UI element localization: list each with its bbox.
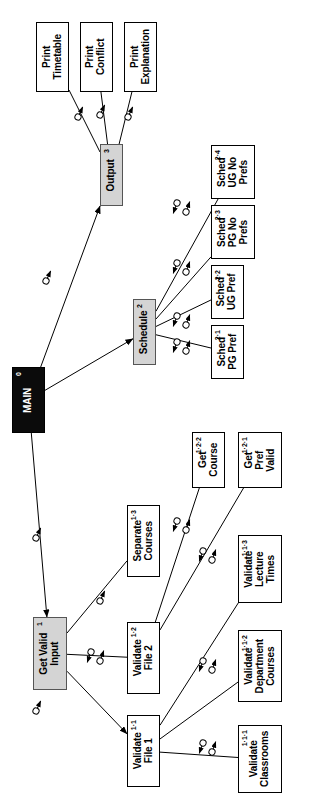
module-number: 2·4 bbox=[214, 150, 221, 160]
data-couple-out-7 bbox=[182, 340, 193, 355]
data-couple-in-14 bbox=[196, 657, 207, 672]
connector-valfile1-to-valclass bbox=[160, 752, 238, 757]
data-couple-1 bbox=[96, 104, 108, 119]
connector-valfile2-to-getpref bbox=[160, 488, 244, 630]
connector-output-to-printex bbox=[119, 92, 132, 144]
data-couple-in-12 bbox=[170, 517, 181, 532]
data-couple-in-6 bbox=[170, 312, 181, 327]
module-number: 2·2 bbox=[214, 270, 221, 280]
data-couple-in-13 bbox=[196, 547, 207, 562]
module-label: Validate File 1 bbox=[133, 733, 155, 770]
module-schedule[interactable]: Schedule2 bbox=[133, 299, 156, 365]
data-couple-out-4 bbox=[182, 201, 193, 216]
module-label: Validate Lecture Times bbox=[244, 550, 276, 587]
data-couple-3 bbox=[42, 270, 54, 285]
connector-valfile2-to-getcourse bbox=[155, 488, 199, 622]
data-couple-out-13 bbox=[208, 549, 219, 564]
data-couple-in-10 bbox=[84, 648, 95, 663]
module-number: 1·1·1 bbox=[241, 730, 248, 746]
data-couple-out-10 bbox=[96, 650, 107, 665]
data-couple-out-14 bbox=[208, 659, 219, 674]
module-number: 3 bbox=[103, 149, 110, 153]
module-valdept[interactable]: Validate Department Courses1·1·2 bbox=[238, 630, 282, 702]
module-label: Validate Department Courses bbox=[244, 639, 276, 694]
module-number: 1·1·2 bbox=[241, 635, 248, 651]
connector-schedule-to-sch23 bbox=[156, 257, 211, 319]
connector-main-to-schedule bbox=[45, 339, 133, 391]
module-label: Sched UG No Prefs bbox=[217, 157, 249, 188]
data-couple-11 bbox=[32, 700, 44, 715]
connector-getvalid-to-valfile2 bbox=[67, 654, 127, 657]
data-couple-0 bbox=[74, 106, 86, 121]
data-couple-in-4 bbox=[170, 199, 181, 214]
connector-valfile1-to-vallect bbox=[160, 603, 238, 725]
module-label: Schedule bbox=[139, 310, 150, 354]
module-label: MAIN bbox=[23, 387, 34, 412]
module-printcf[interactable]: Print Conflict bbox=[80, 22, 113, 92]
data-couple-8 bbox=[32, 527, 44, 542]
module-sch21[interactable]: Sched PG Pref2·1 bbox=[211, 325, 244, 379]
module-label: Get Pref Valid bbox=[244, 449, 276, 472]
module-label: Print Timetable bbox=[42, 34, 64, 80]
connector-getvalid-to-valfile1 bbox=[67, 671, 127, 734]
module-sch22[interactable]: Sched UG Pref2·2 bbox=[211, 265, 244, 319]
data-couple-out-15 bbox=[208, 741, 219, 756]
module-label: Get Valid Input bbox=[39, 633, 61, 675]
data-couple-out-5 bbox=[182, 261, 193, 276]
data-couple-2 bbox=[124, 106, 136, 121]
connector-output-to-printcf bbox=[101, 92, 108, 144]
module-sch24[interactable]: Sched UG No Prefs2·4 bbox=[211, 145, 255, 199]
module-main[interactable]: MAIN0 bbox=[12, 367, 45, 433]
connector-main-to-getvalid bbox=[31, 433, 47, 617]
data-couple-in-7 bbox=[170, 338, 181, 353]
module-label: Print Conflict bbox=[86, 39, 108, 75]
module-getpref[interactable]: Get Pref Valid1·2·1 bbox=[238, 432, 282, 488]
module-output[interactable]: Output3 bbox=[100, 144, 123, 206]
module-getvalid[interactable]: Get Valid Input1 bbox=[33, 617, 67, 690]
module-number: 1·2 bbox=[130, 627, 137, 637]
module-label: Validate File 2 bbox=[133, 640, 155, 677]
module-number: 2·1 bbox=[214, 330, 221, 340]
data-couple-out-6 bbox=[182, 314, 193, 329]
module-label: Output bbox=[106, 159, 117, 191]
module-label: Sched PG No Prefs bbox=[217, 217, 249, 247]
data-couple-9 bbox=[96, 590, 108, 605]
connector-getvalid-to-sepcourses bbox=[67, 561, 127, 633]
module-number: 1·2·2 bbox=[195, 437, 202, 453]
connector-schedule-to-sch24 bbox=[156, 199, 218, 311]
module-label: Print Explanation bbox=[130, 29, 152, 85]
module-valclass[interactable]: Validate Classrooms1·1·1 bbox=[238, 725, 282, 793]
data-couple-out-12 bbox=[182, 519, 193, 534]
module-valfile1[interactable]: Validate File 11·1 bbox=[127, 715, 160, 787]
module-label: Validate Classrooms bbox=[249, 731, 271, 787]
connector-schedule-to-sch21 bbox=[156, 335, 211, 348]
module-number: 1 bbox=[36, 622, 43, 626]
module-number: 2 bbox=[136, 304, 143, 308]
data-couple-in-5 bbox=[170, 259, 181, 274]
module-number: 1·3 bbox=[130, 510, 137, 520]
module-vallect[interactable]: Validate Lecture Times1·1·3 bbox=[238, 535, 282, 603]
structure-chart-canvas: MAIN0Output3Schedule2Get Valid Input1Pri… bbox=[0, 0, 312, 799]
module-number: 1·1 bbox=[130, 720, 137, 730]
module-number: 0 bbox=[15, 372, 22, 376]
module-printtt[interactable]: Print Timetable bbox=[36, 22, 69, 92]
module-sepcourses[interactable]: Separate Courses1·3 bbox=[127, 505, 160, 577]
module-number: 1·1·3 bbox=[241, 540, 248, 556]
data-couple-in-15 bbox=[196, 739, 207, 754]
module-printex[interactable]: Print Explanation bbox=[124, 22, 157, 92]
module-valfile2[interactable]: Validate File 21·2 bbox=[127, 622, 160, 694]
connector-main-to-output bbox=[41, 206, 100, 367]
module-sch23[interactable]: Sched PG No Prefs2·3 bbox=[211, 205, 255, 259]
connector-output-to-printtt bbox=[69, 90, 100, 152]
module-number: 2·3 bbox=[214, 210, 221, 220]
module-label: Separate Courses bbox=[133, 520, 155, 561]
module-getcourse[interactable]: Get Course1·2·2 bbox=[192, 432, 225, 488]
connector-schedule-to-sch22 bbox=[156, 300, 211, 327]
module-number: 1·2·1 bbox=[241, 437, 248, 453]
connector-valfile1-to-valdept bbox=[160, 682, 238, 739]
